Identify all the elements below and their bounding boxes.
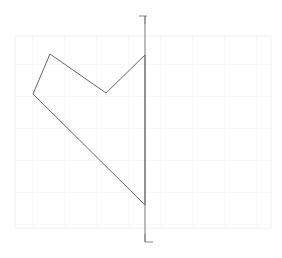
top-corner-tick-icon <box>139 16 147 24</box>
background-grid <box>15 36 271 228</box>
drawing-canvas <box>0 0 282 258</box>
bottom-corner-tick-icon <box>145 234 153 242</box>
drawing-svg <box>0 0 282 258</box>
